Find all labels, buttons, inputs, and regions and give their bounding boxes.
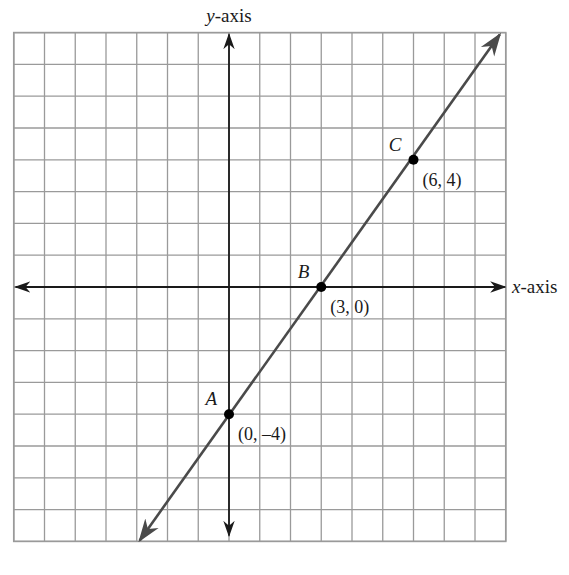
- point-coordinate-label: (3, 0): [330, 297, 369, 318]
- point-c: [409, 155, 419, 165]
- point-name-label: C: [389, 134, 402, 155]
- x-axis-label: x-axis: [511, 276, 557, 297]
- point-b: [316, 282, 326, 292]
- point-coordinate-label: (0, –4): [238, 424, 286, 445]
- point-name-label: A: [203, 388, 217, 409]
- coordinate-plane: A(0, –4)B(3, 0)C(6, 4) y-axis x-axis: [0, 0, 569, 575]
- point-coordinate-label: (6, 4): [423, 170, 462, 191]
- point-name-label: B: [298, 261, 310, 282]
- y-axis-label: y-axis: [204, 5, 251, 26]
- point-a: [224, 409, 234, 419]
